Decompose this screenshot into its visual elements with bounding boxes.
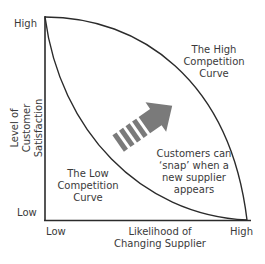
snap-annotation-line1: Customers can [156,148,232,160]
snap-annotation-line2: ‘snap’ when a [156,160,232,172]
y-axis-high-label: High [14,18,37,30]
low-competition-label-line1: The Low [53,168,123,180]
high-competition-label: The High Competition Curve [178,44,250,80]
y-axis-title-line2: Customer Satisfaction [21,73,45,183]
low-competition-label-line3: Curve [53,192,123,204]
high-competition-label-line3: Curve [178,68,250,80]
high-competition-label-line1: The High [178,44,250,56]
x-axis-title: Likelihood of Changing Supplier [110,226,210,250]
snap-annotation-line3: new supplier [156,172,232,184]
snap-annotation: Customers can ‘snap’ when a new supplier… [156,148,232,196]
x-axis-title-line1: Likelihood of [110,226,210,238]
y-axis-low-label: Low [17,207,37,219]
snap-annotation-line4: appears [156,184,232,196]
x-axis-title-line2: Changing Supplier [110,238,210,250]
high-competition-label-line2: Competition [178,56,250,68]
y-axis-title: Level of Customer Satisfaction [9,73,45,183]
x-axis-high-label: High [230,226,253,238]
y-axis-title-line1: Level of [9,73,21,183]
x-axis-low-label: Low [46,226,66,238]
low-competition-label-line2: Competition [53,180,123,192]
low-competition-label: The Low Competition Curve [53,168,123,204]
